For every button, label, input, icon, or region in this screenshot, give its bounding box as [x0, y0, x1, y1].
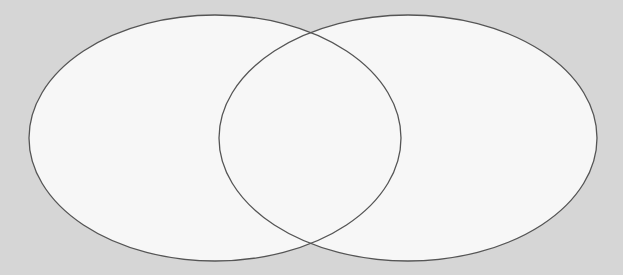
venn-diagram-canvas	[0, 0, 623, 275]
venn-diagram	[0, 0, 623, 275]
right-set-fill	[219, 15, 597, 261]
